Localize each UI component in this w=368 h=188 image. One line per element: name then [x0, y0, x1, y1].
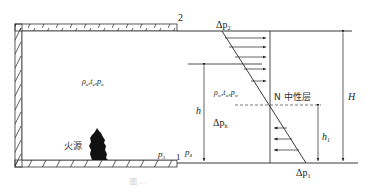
h1-label: h1 [322, 131, 330, 143]
p4-label: p4 [184, 147, 193, 158]
h-label: h [196, 105, 201, 116]
opening-bottom-label: 1 [176, 152, 181, 162]
delta-p2-label: Δp2 [216, 19, 230, 31]
stack-effect-diagram: 2 1 Δp2 Δp1 Δph ρu,tu,pu ρw,tw,pw N 中性层 … [0, 0, 368, 188]
figure-caption: 图 … [130, 178, 146, 186]
inside-properties-label: ρu,tu,pu [81, 77, 104, 87]
floor-wall [15, 160, 177, 167]
neutral-layer-label: N 中性层 [274, 91, 311, 102]
delta-ph-label: Δph [213, 117, 227, 129]
ceiling-wall [15, 24, 177, 31]
delta-p1-label: Δp1 [296, 167, 310, 179]
fire-source-label: 火源 [64, 141, 82, 151]
outflow-arrows [225, 38, 266, 81]
opening-top-label: 2 [178, 12, 183, 23]
outside-properties-label: ρw,tw,pw [213, 88, 239, 98]
left-wall [15, 24, 22, 167]
H-label: H [347, 91, 356, 102]
